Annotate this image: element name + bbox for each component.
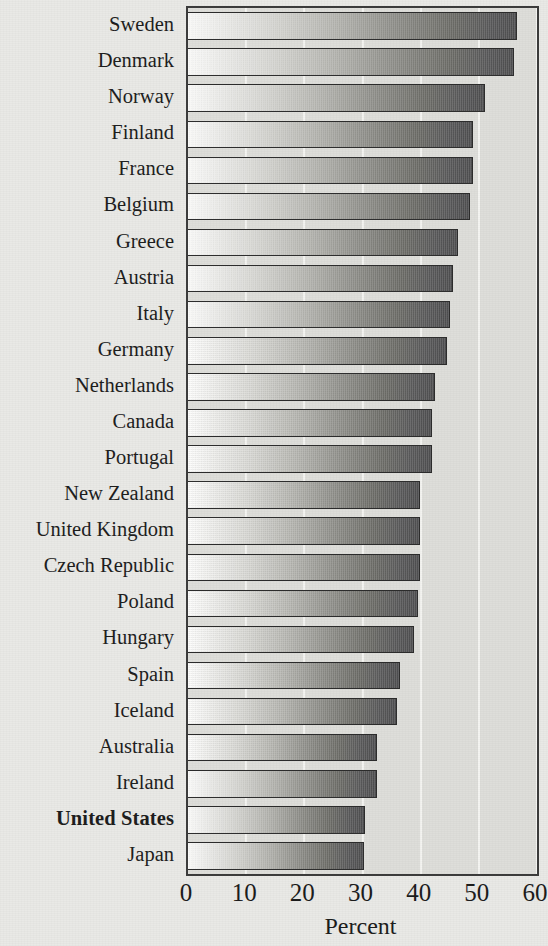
- category-label-ireland: Ireland: [0, 772, 174, 793]
- category-label-japan: Japan: [0, 844, 174, 865]
- bar-row: [188, 517, 537, 545]
- bar-italy: [188, 301, 450, 329]
- bar-united-states: [188, 806, 365, 834]
- bar-row: [188, 229, 537, 257]
- bar-chart-figure: SwedenDenmarkNorwayFinlandFranceBelgiumG…: [0, 0, 548, 946]
- bar-poland: [188, 590, 418, 618]
- bar-sweden: [188, 12, 517, 40]
- x-tick-label-20: 20: [290, 880, 315, 905]
- bar-finland: [188, 121, 473, 149]
- bar-row: [188, 121, 537, 149]
- category-label-united-kingdom: United Kingdom: [0, 519, 174, 540]
- bar-row: [188, 698, 537, 726]
- bar-row: [188, 806, 537, 834]
- bar-ireland: [188, 770, 377, 798]
- category-label-france: France: [0, 158, 174, 179]
- bar-united-kingdom: [188, 517, 420, 545]
- bar-norway: [188, 84, 485, 112]
- category-label-austria: Austria: [0, 267, 174, 288]
- bar-japan: [188, 842, 364, 870]
- category-label-netherlands: Netherlands: [0, 375, 174, 396]
- bar-row: [188, 301, 537, 329]
- bar-austria: [188, 265, 453, 293]
- x-tick-label-0: 0: [180, 880, 193, 905]
- x-axis-tick-labels: 0102030405060: [186, 880, 535, 914]
- bar-new-zealand: [188, 481, 420, 509]
- category-label-finland: Finland: [0, 122, 174, 143]
- bar-netherlands: [188, 373, 435, 401]
- bar-row: [188, 590, 537, 618]
- bar-germany: [188, 337, 447, 365]
- bar-row: [188, 662, 537, 690]
- bar-row: [188, 157, 537, 185]
- bar-australia: [188, 734, 377, 762]
- category-label-czech-republic: Czech Republic: [0, 555, 174, 576]
- category-label-iceland: Iceland: [0, 700, 174, 721]
- bar-row: [188, 12, 537, 40]
- bar-row: [188, 626, 537, 654]
- bar-row: [188, 337, 537, 365]
- bar-portugal: [188, 445, 432, 473]
- category-label-hungary: Hungary: [0, 627, 174, 648]
- x-tick-label-40: 40: [406, 880, 431, 905]
- x-tick-label-10: 10: [232, 880, 257, 905]
- bar-row: [188, 734, 537, 762]
- plot-inner: [188, 8, 537, 874]
- bar-row: [188, 193, 537, 221]
- bar-canada: [188, 409, 432, 437]
- category-label-united-states: United States: [0, 808, 174, 829]
- bar-hungary: [188, 626, 414, 654]
- bar-row: [188, 481, 537, 509]
- category-label-italy: Italy: [0, 303, 174, 324]
- category-label-germany: Germany: [0, 339, 174, 360]
- category-label-new-zealand: New Zealand: [0, 483, 174, 504]
- bar-row: [188, 554, 537, 582]
- bar-row: [188, 770, 537, 798]
- bar-belgium: [188, 193, 470, 221]
- bar-row: [188, 445, 537, 473]
- bar-row: [188, 842, 537, 870]
- bar-row: [188, 409, 537, 437]
- bar-row: [188, 84, 537, 112]
- category-label-denmark: Denmark: [0, 50, 174, 71]
- x-tick-label-50: 50: [464, 880, 489, 905]
- category-label-norway: Norway: [0, 86, 174, 107]
- category-label-australia: Australia: [0, 736, 174, 757]
- category-label-belgium: Belgium: [0, 194, 174, 215]
- category-label-portugal: Portugal: [0, 447, 174, 468]
- bar-row: [188, 373, 537, 401]
- bar-row: [188, 265, 537, 293]
- bar-france: [188, 157, 473, 185]
- x-axis-title: Percent: [186, 914, 535, 938]
- category-label-column: SwedenDenmarkNorwayFinlandFranceBelgiumG…: [0, 6, 182, 872]
- bar-iceland: [188, 698, 397, 726]
- x-tick-label-30: 30: [348, 880, 373, 905]
- category-label-poland: Poland: [0, 591, 174, 612]
- category-label-sweden: Sweden: [0, 14, 174, 35]
- category-label-canada: Canada: [0, 411, 174, 432]
- x-tick-label-60: 60: [523, 880, 548, 905]
- plot-area: [186, 6, 539, 876]
- bar-denmark: [188, 48, 514, 76]
- category-label-spain: Spain: [0, 664, 174, 685]
- category-label-greece: Greece: [0, 231, 174, 252]
- bar-spain: [188, 662, 400, 690]
- bar-czech-republic: [188, 554, 420, 582]
- bar-row: [188, 48, 537, 76]
- bar-greece: [188, 229, 458, 257]
